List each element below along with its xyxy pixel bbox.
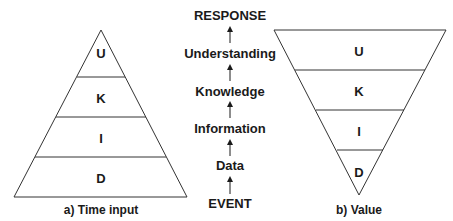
dikw-diagram: U K I D a) Time input U K I D b) Value R… <box>0 0 453 221</box>
left-layer-k: K <box>96 91 106 106</box>
right-caption: b) Value <box>336 203 382 217</box>
left-caption: a) Time input <box>64 203 138 217</box>
step-event: EVENT <box>208 196 251 211</box>
right-layer-k: K <box>354 84 364 99</box>
right-layer-u: U <box>354 44 363 59</box>
right-layer-i: I <box>357 124 361 139</box>
left-layer-i: I <box>99 131 103 146</box>
right-layer-d: D <box>354 165 363 180</box>
left-layer-u: U <box>96 46 105 61</box>
step-information: Information <box>194 121 266 136</box>
step-knowledge: Knowledge <box>195 84 264 99</box>
step-data: Data <box>216 158 245 173</box>
step-response: RESPONSE <box>194 8 267 23</box>
left-layer-d: D <box>96 171 105 186</box>
step-understanding: Understanding <box>184 46 276 61</box>
